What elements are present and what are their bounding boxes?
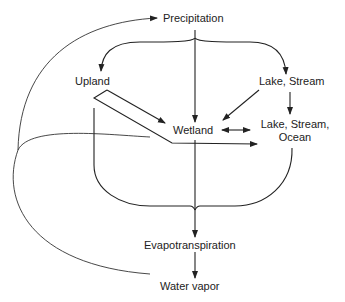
node-evapotranspiration: Evapotranspiration bbox=[144, 239, 236, 252]
node-lake-stream-ocean-line1: Lake, Stream, bbox=[255, 118, 335, 131]
node-water-vapor: Water vapor bbox=[160, 280, 220, 293]
edge-upland-to-wetland bbox=[107, 90, 165, 123]
diagram-connectors bbox=[0, 0, 345, 302]
node-upland: Upland bbox=[75, 75, 110, 88]
node-lake-stream-ocean: Lake, Stream, Ocean bbox=[255, 118, 335, 144]
node-wetland: Wetland bbox=[173, 124, 213, 137]
precipitation-brace-right bbox=[195, 38, 286, 74]
water-cycle-diagram: Precipitation Upland Lake, Stream Wetlan… bbox=[0, 0, 345, 302]
node-lake-stream-ocean-line2: Ocean bbox=[255, 131, 335, 144]
node-lake-stream: Lake, Stream bbox=[259, 75, 324, 88]
precipitation-brace bbox=[101, 30, 195, 71]
lower-brace-right bbox=[195, 148, 292, 210]
edge-lakestream-to-wetland bbox=[223, 90, 259, 120]
node-precipitation: Precipitation bbox=[163, 12, 224, 25]
